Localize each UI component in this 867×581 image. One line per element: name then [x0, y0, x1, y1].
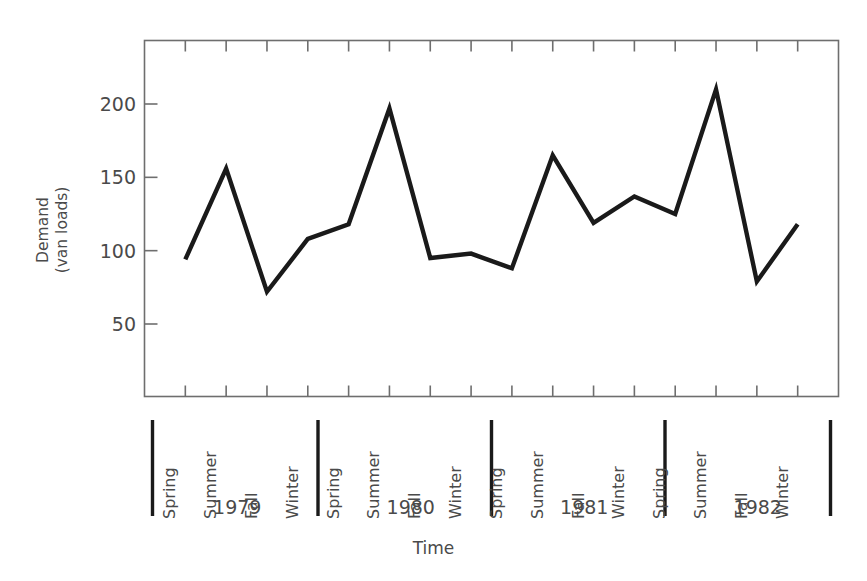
chart-figure: Demand (van loads) 50100150200 SpringSum…	[0, 0, 867, 581]
x-axis-year-labels: 1979198019811982	[0, 0, 867, 581]
year-label-1979: 1979	[213, 496, 261, 518]
year-label-1980: 1980	[387, 496, 435, 518]
year-label-1981: 1981	[560, 496, 608, 518]
year-label-1982: 1982	[734, 496, 782, 518]
x-axis-title: Time	[0, 538, 867, 558]
